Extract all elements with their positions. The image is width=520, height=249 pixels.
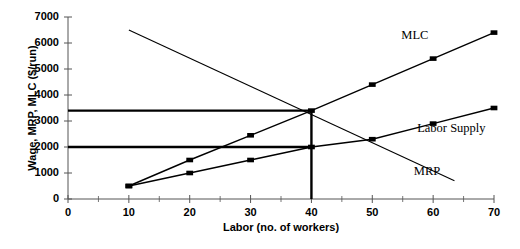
y-tick-label: 6000 xyxy=(35,36,59,48)
series-line-mrp xyxy=(129,30,455,181)
data-marker xyxy=(308,145,315,150)
data-marker xyxy=(491,106,498,111)
x-tick-label: 40 xyxy=(305,206,317,218)
y-axis-title: Wage, MRP, MLC ($/run) xyxy=(26,45,38,171)
series-label-labor-supply: Labor Supply xyxy=(417,121,486,135)
chart-canvas: 01000200030004000500060007000 0102030405… xyxy=(0,0,520,249)
x-tick-label: 10 xyxy=(123,206,135,218)
axis-titles: Labor (no. of workers)Wage, MRP, MLC ($/… xyxy=(26,45,339,233)
y-tick-label: 3000 xyxy=(35,114,59,126)
data-marker xyxy=(369,82,376,87)
y-axis-tick-labels: 01000200030004000500060007000 xyxy=(35,10,59,204)
x-tick-label: 50 xyxy=(366,206,378,218)
y-tick-label: 4000 xyxy=(35,88,59,100)
data-marker xyxy=(125,184,132,189)
series-annotations: MLCLabor SupplyMRP xyxy=(401,28,486,177)
y-tick-label: 5000 xyxy=(35,62,59,74)
x-tick-label: 30 xyxy=(244,206,256,218)
y-tick-label: 2000 xyxy=(35,140,59,152)
series-label-mlc: MLC xyxy=(401,28,428,42)
data-marker xyxy=(247,133,254,138)
data-marker xyxy=(369,137,376,142)
x-axis-title: Labor (no. of workers) xyxy=(223,221,339,233)
data-marker xyxy=(430,56,437,61)
x-tick-label: 0 xyxy=(65,206,71,218)
data-marker xyxy=(247,158,254,163)
x-tick-label: 70 xyxy=(488,206,500,218)
series-label-mrp: MRP xyxy=(414,164,440,178)
data-marker xyxy=(186,158,193,163)
x-tick-label: 60 xyxy=(427,206,439,218)
chart-figure: 01000200030004000500060007000 0102030405… xyxy=(0,0,520,249)
y-tick-label: 1000 xyxy=(35,166,59,178)
data-marker xyxy=(491,30,498,35)
data-marker xyxy=(308,108,315,113)
data-marker xyxy=(186,171,193,176)
x-axis-tick-labels: 010203040506070 xyxy=(65,206,500,218)
y-tick-label: 7000 xyxy=(35,10,59,22)
x-tick-label: 20 xyxy=(184,206,196,218)
y-tick-label: 0 xyxy=(53,192,59,204)
